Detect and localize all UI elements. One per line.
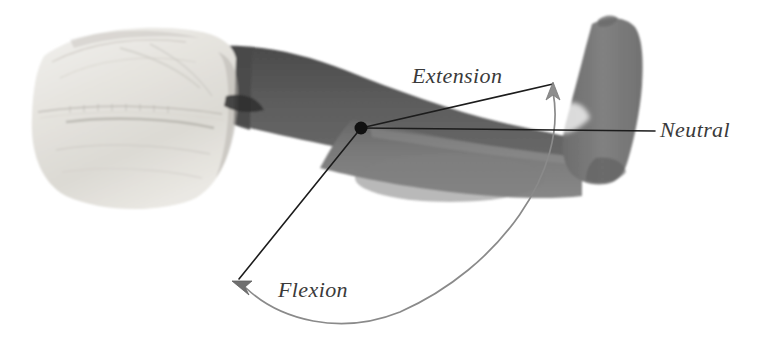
knee-rom-figure: Extension Neutral Flexion [0, 0, 772, 344]
knee-joint-dot [355, 122, 368, 135]
figure-canvas: Extension Neutral Flexion [0, 0, 772, 344]
extension-label: Extension [411, 63, 502, 88]
flexion-label: Flexion [277, 277, 348, 302]
shorts-shape [32, 28, 239, 209]
neutral-label: Neutral [659, 117, 730, 142]
